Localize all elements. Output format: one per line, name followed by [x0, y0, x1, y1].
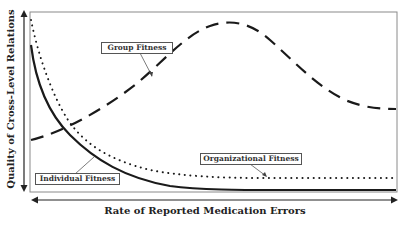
individual-fitness-label: Individual Fitness — [35, 173, 120, 185]
group-fitness-curve — [31, 23, 396, 140]
organizational-leader-arrowhead — [262, 172, 267, 177]
individual-fitness-curve — [31, 45, 396, 190]
group-fitness-label: Group Fitness — [101, 42, 173, 54]
y-axis-arrow — [21, 10, 28, 192]
chart-canvas — [0, 0, 410, 225]
organizational-fitness-label: Organizational Fitness — [200, 153, 302, 165]
x-axis-arrow — [31, 197, 398, 204]
group-leader-arrowhead — [149, 72, 153, 77]
y-axis-label: Quality of Cross-Level Relations — [5, 9, 19, 189]
x-axis-label: Rate of Reported Medication Errors — [0, 205, 410, 216]
individual-leader-line — [75, 157, 94, 174]
